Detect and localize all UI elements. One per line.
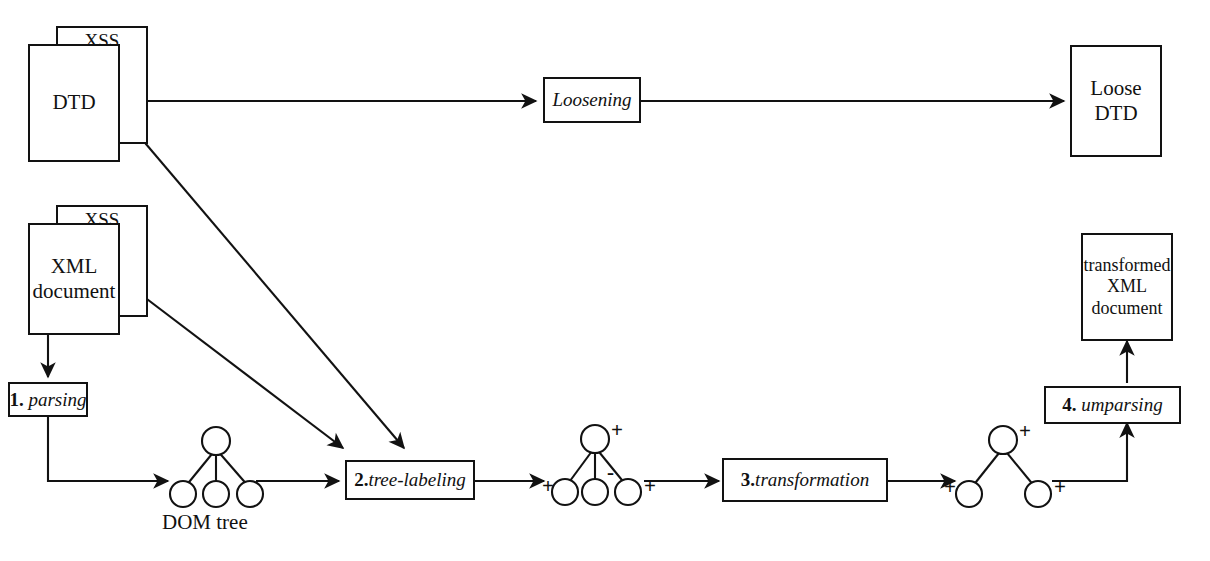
process-parsing[interactable]: 1. parsing [8,382,88,417]
labeled-tree-child-2-sign: - [607,462,614,483]
process-tree-labeling[interactable]: 2.tree-labeling [345,460,475,500]
dtd-label: DTD [52,90,95,115]
dtd-document-stack[interactable]: XSS DTD [28,26,148,162]
process-transformation-number: 3. [741,469,755,490]
labeled-tree-root-sign: + [611,420,623,441]
process-parsing-number: 1. [9,389,23,410]
process-parsing-label: parsing [28,389,86,410]
transformed-tree-child-2-sign: + [1054,477,1066,498]
edge-parsing-to-dom-tree [48,417,168,481]
dom-tree-graphic [170,427,263,507]
dom-tree-caption: DOM tree [162,510,248,535]
transformed-xml-label-line1: transformed [1084,255,1171,276]
transformed-xml-label-line2: XML [1084,276,1171,297]
transformed-tree-child-1-sign: + [944,477,956,498]
process-umparsing-label: umparsing [1081,394,1162,415]
process-loosening-label: Loosening [552,89,631,110]
xml-document-stack[interactable]: XSS XML document [28,205,148,335]
loose-dtd-label-line2: DTD [1090,101,1141,126]
xml-document-label-line2: document [33,279,116,304]
labeled-tree-child-3-sign: + [644,476,656,497]
edge-xml-to-tree-labeling [139,293,343,448]
process-tree-labeling-number: 2. [354,469,368,490]
xml-document-sheet[interactable]: XML document [28,223,120,335]
edge-dtd-to-tree-labeling [129,124,404,448]
process-transformation-label: transformation [755,469,869,490]
process-loosening[interactable]: Loosening [543,77,641,123]
process-transformation[interactable]: 3.transformation [722,458,888,502]
process-tree-labeling-label: tree-labeling [368,469,465,490]
diagram-canvas: XSS DTD XSS XML document Loosening Loose… [0,0,1210,561]
edge-transformed-tree-to-umparsing [1052,423,1127,481]
process-umparsing[interactable]: 4. umparsing [1044,386,1181,424]
transformed-tree-root-sign: + [1019,421,1031,442]
loose-dtd-label-line1: Loose [1090,76,1141,101]
labeled-tree-graphic [552,425,641,505]
process-umparsing-number: 4. [1062,394,1076,415]
labeled-tree-child-1-sign: + [542,476,554,497]
loose-dtd-box[interactable]: Loose DTD [1070,45,1162,157]
transformed-xml-label-line3: document [1084,298,1171,319]
transformed-xml-document-box[interactable]: transformed XML document [1081,233,1173,341]
xml-document-label-line1: XML [33,254,116,279]
transformed-tree-graphic [956,426,1051,507]
dtd-sheet[interactable]: DTD [28,44,120,162]
